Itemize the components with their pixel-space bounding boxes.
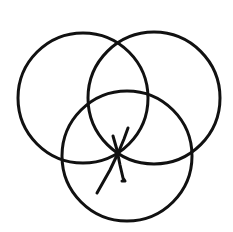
three-circle-venn-diagram — [0, 0, 233, 232]
background — [0, 0, 233, 232]
venn-diagram-canvas — [0, 0, 233, 232]
